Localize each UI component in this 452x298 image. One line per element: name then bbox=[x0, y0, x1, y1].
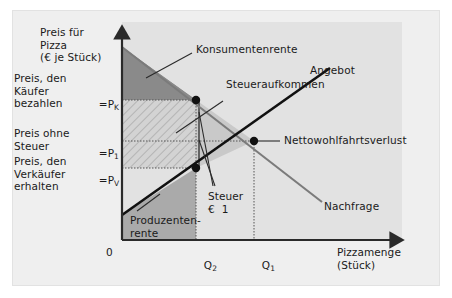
q2-q: Q bbox=[204, 259, 212, 271]
annotation-deadweight-loss: Nettowohlfahrtsverlust bbox=[284, 134, 407, 147]
price-label-pv-symbol: =PV bbox=[85, 161, 119, 201]
annotation-tax-label: Steuer bbox=[208, 190, 243, 203]
annotation-tax-amount: € 1 bbox=[208, 203, 228, 216]
price-label-pk-text: Preis, den Käufer bezahlen bbox=[14, 72, 67, 110]
price-label-pk-symbol: =PK bbox=[85, 85, 119, 125]
pv-subscript: V bbox=[114, 179, 119, 188]
q2-subscript: 2 bbox=[212, 264, 217, 273]
price-label-pv-text: Preis, den Verkäufer erhalten bbox=[14, 155, 67, 193]
pk-subscript: K bbox=[114, 103, 119, 112]
y-axis-title: Preis für Pizza (€ je Stück) bbox=[40, 26, 101, 64]
origin-label: 0 bbox=[106, 246, 113, 259]
annotation-supply-curve: Angebot bbox=[310, 64, 355, 77]
point-equilibrium bbox=[250, 137, 258, 145]
annotation-demand-curve: Nachfrage bbox=[324, 200, 379, 213]
annotation-consumer-surplus: Konsumentenrente bbox=[196, 43, 298, 56]
point-pv-q2 bbox=[192, 164, 200, 172]
quantity-label-q1: Q1 bbox=[248, 246, 275, 286]
p1-subscript: 1 bbox=[114, 152, 119, 161]
annotation-producer-surplus: Produzenten- rente bbox=[130, 214, 201, 239]
q1-subscript: 1 bbox=[270, 264, 275, 273]
q1-q: Q bbox=[262, 259, 270, 271]
pv-equals: = bbox=[99, 174, 108, 186]
x-axis-title: Pizzamenge (Stück) bbox=[337, 246, 401, 271]
pk-equals: = bbox=[99, 98, 108, 110]
point-pk-q2 bbox=[192, 96, 200, 104]
quantity-label-q2: Q2 bbox=[190, 246, 217, 286]
p1-equals: = bbox=[99, 147, 108, 159]
economics-tax-diagram: Preis für Pizza (€ je Stück) Preis, den … bbox=[0, 0, 452, 298]
annotation-tax-revenue: Steueraufkommen bbox=[226, 78, 325, 91]
price-label-p1-text: Preis ohne Steuer bbox=[14, 127, 70, 152]
tax-revenue-region bbox=[122, 100, 196, 168]
